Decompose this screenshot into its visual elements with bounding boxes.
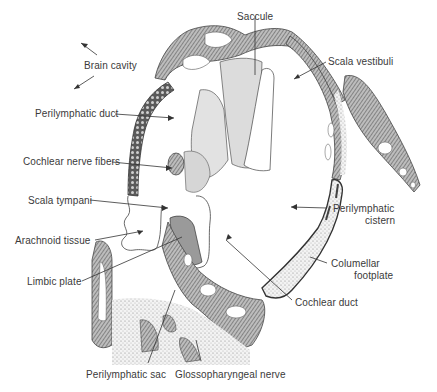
label-cochlear-duct: Cochlear duct <box>295 297 358 308</box>
label-perilymphatic-cistern-2: cistern <box>365 215 395 226</box>
cochlear-nerve-fibers <box>168 153 184 175</box>
label-columellar-footplate-2: footplate <box>354 270 393 281</box>
label-cochlear-nerve-fibers: Cochlear nerve fibers <box>23 156 120 167</box>
label-perilymphatic-sac: Perilymphatic sac <box>86 369 166 380</box>
bone-right-outer <box>343 75 420 192</box>
label-saccule: Saccule <box>237 11 273 22</box>
label-columellar-footplate-1: Columellar <box>331 258 380 269</box>
label-arachnoid-tissue: Arachnoid tissue <box>15 235 91 246</box>
label-scala-vestibuli: Scala vestibuli <box>328 56 393 67</box>
label-scala-tympani: Scala tympani <box>28 195 92 206</box>
columellar-footplate <box>262 180 342 298</box>
label-perilymphatic-duct: Perilymphatic duct <box>35 108 119 119</box>
inner-ear-diagram: Brain cavity Saccule Scala vestibuli Per… <box>0 0 437 392</box>
perilymphatic-duct-wall <box>128 82 174 196</box>
label-glossopharyngeal-nerve: Glossopharyngeal nerve <box>175 369 286 380</box>
label-brain-cavity: Brain cavity <box>84 60 137 71</box>
label-limbic-plate: Limbic plate <box>27 276 82 287</box>
label-perilymphatic-cistern-1: Perilymphatic <box>333 203 394 214</box>
